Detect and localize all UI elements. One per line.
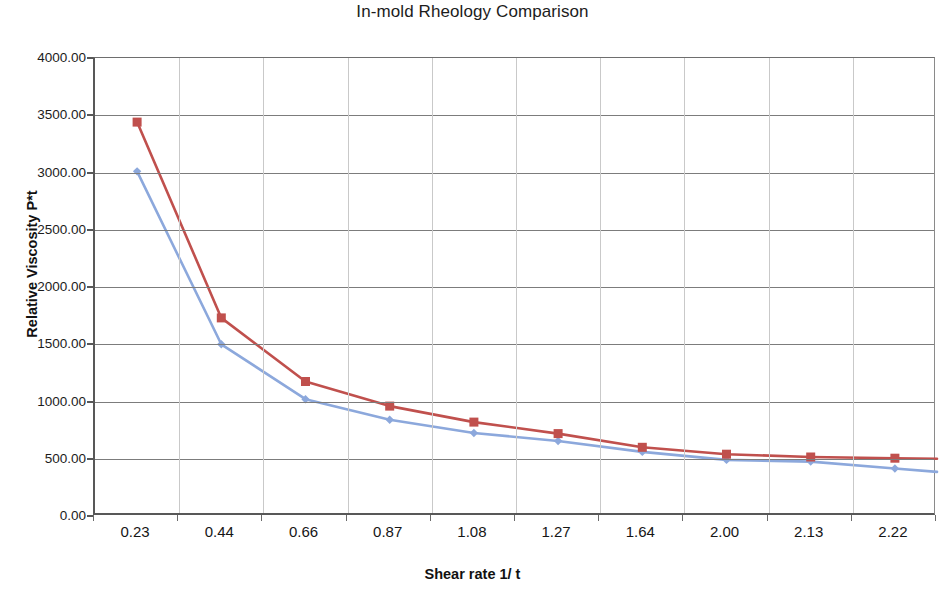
x-axis-tick-mark	[93, 515, 94, 521]
x-axis-tick-mark	[851, 515, 852, 521]
data-point-marker-diamond	[722, 456, 730, 464]
x-axis-tick-mark	[177, 515, 178, 521]
x-axis-tick-label: 1.08	[457, 523, 486, 540]
data-point-marker-square	[722, 450, 731, 459]
x-axis-tick-mark	[346, 515, 347, 521]
x-axis-tick-mark	[767, 515, 768, 521]
plot-area	[93, 57, 935, 515]
vertical-gridline	[684, 58, 685, 513]
x-axis-tick-label: 1.27	[541, 523, 570, 540]
x-axis-tick-label: 2.22	[878, 523, 907, 540]
data-point-marker-square	[217, 313, 226, 322]
vertical-gridline	[348, 58, 349, 513]
vertical-gridline	[179, 58, 180, 513]
data-point-marker-square	[469, 418, 478, 427]
x-axis-tick-label: 0.23	[120, 523, 149, 540]
data-point-marker-square	[806, 453, 815, 462]
series-line-blue	[137, 171, 937, 472]
x-axis-tick-mark	[598, 515, 599, 521]
x-axis-tick-label: 0.87	[373, 523, 402, 540]
data-point-marker-diamond	[638, 448, 646, 456]
data-point-marker-diamond	[554, 437, 562, 445]
horizontal-gridline	[95, 115, 934, 116]
data-point-marker-square	[133, 118, 142, 127]
x-axis-tick-mark	[935, 515, 936, 521]
vertical-gridline	[432, 58, 433, 513]
vertical-gridline	[853, 58, 854, 513]
vertical-gridline	[263, 58, 264, 513]
x-axis-tick-label: 0.66	[289, 523, 318, 540]
data-point-marker-diamond	[386, 416, 394, 424]
horizontal-gridline	[95, 402, 934, 403]
data-point-marker-diamond	[133, 167, 141, 175]
x-axis-tick-mark	[430, 515, 431, 521]
data-point-marker-square	[385, 402, 394, 411]
data-point-marker-diamond	[470, 429, 478, 437]
chart-title: In-mold Rheology Comparison	[0, 2, 945, 22]
x-axis-tick-label: 2.13	[794, 523, 823, 540]
x-axis-tick-labels: 0.230.440.660.871.081.271.642.002.132.22	[93, 523, 935, 549]
data-point-marker-diamond	[891, 464, 899, 472]
x-axis-tick-label: 1.64	[626, 523, 655, 540]
x-axis-tick-label: 2.00	[710, 523, 739, 540]
data-point-marker-square	[554, 429, 563, 438]
horizontal-gridline	[95, 344, 934, 345]
horizontal-gridline	[95, 173, 934, 174]
vertical-gridline	[769, 58, 770, 513]
x-axis-tick-mark	[261, 515, 262, 521]
x-axis-title: Shear rate 1/ t	[0, 566, 945, 582]
vertical-gridline	[516, 58, 517, 513]
data-point-marker-square	[638, 443, 647, 452]
vertical-gridline	[600, 58, 601, 513]
x-axis-tick-mark	[682, 515, 683, 521]
horizontal-gridline	[95, 230, 934, 231]
y-axis-tick-marks	[0, 57, 93, 515]
data-point-marker-square	[301, 377, 310, 386]
x-axis-tick-label: 0.44	[205, 523, 234, 540]
chart-container: In-mold Rheology Comparison Relative Vis…	[0, 0, 945, 597]
x-axis-tick-mark	[514, 515, 515, 521]
x-axis-tick-marks	[93, 515, 935, 523]
horizontal-gridline	[95, 459, 934, 460]
horizontal-gridline	[95, 287, 934, 288]
